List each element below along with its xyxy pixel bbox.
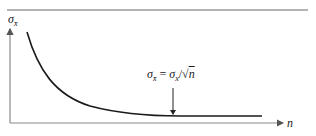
sqrt-icon: √ [182, 67, 189, 81]
standard-error-formula: σx̄ = σx/√n [147, 68, 195, 83]
standard-error-curve [27, 32, 262, 116]
x-axis-label: n [287, 117, 293, 129]
y-axis-label: σx̄ [8, 13, 17, 28]
